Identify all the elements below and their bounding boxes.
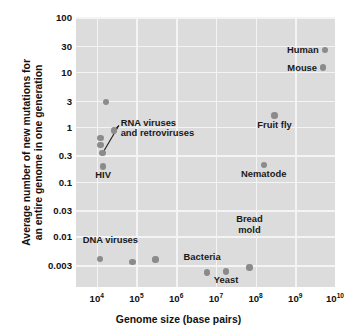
gridline-vertical: [216, 17, 218, 287]
annotation-line-1: Bacteria: [184, 252, 221, 262]
gridline-vertical: [97, 17, 99, 287]
x-tick-1e10: 1010: [326, 293, 344, 304]
annotation-line-1: DNA viruses: [83, 235, 138, 245]
y-axis-title: Average number of new mutations for an e…: [21, 7, 46, 297]
gridline-horizontal: [76, 210, 335, 212]
data-point-rna-virus-5: [99, 150, 105, 156]
y-tick-0.1: 0.1: [59, 176, 72, 187]
x-tick-1e6: 106: [169, 293, 183, 304]
annotation-bacteria: Bacteria: [184, 252, 221, 262]
point-label-hiv: HIV: [95, 170, 111, 180]
x-axis-tick-labels: 1041051061071081091010: [0, 293, 357, 309]
data-point-rna-virus-1: [103, 99, 109, 105]
annotation-rna-viruses: RNA virusesand retroviruses: [121, 118, 194, 139]
x-tick-exponent: 9: [299, 292, 303, 299]
y-tick-30: 30: [61, 40, 72, 51]
x-tick-mantissa: 10: [326, 293, 337, 304]
data-point-bread-mold: [246, 264, 252, 270]
x-tick-exponent: 4: [100, 292, 104, 299]
gridline-vertical: [176, 17, 178, 287]
y-tick-0.3: 0.3: [59, 150, 72, 161]
x-tick-exponent: 8: [259, 292, 263, 299]
data-point-human: [322, 47, 328, 53]
gridline-horizontal: [76, 182, 335, 184]
x-tick-exponent: 5: [140, 292, 144, 299]
y-tick-0.003: 0.003: [48, 260, 72, 271]
gridline-horizontal: [76, 17, 335, 19]
x-axis-title: Genome size (base pairs): [0, 314, 357, 325]
point-label-nematode: Nematode: [241, 169, 286, 179]
y-tick-3: 3: [67, 95, 72, 106]
gridline-vertical: [295, 17, 297, 287]
data-point-dna-virus-1: [97, 256, 103, 262]
data-point-bacteria: [204, 269, 210, 275]
x-tick-exponent: 10: [337, 292, 344, 299]
mutation-rate-scatter-figure: HumanMouseFruit flyNematodeHIVYeast RNA …: [0, 0, 357, 336]
point-label-fruit-fly: Fruit fly: [257, 120, 291, 130]
y-tick-1: 1: [67, 121, 72, 132]
gridline-horizontal: [76, 101, 335, 103]
x-tick-exponent: 7: [219, 292, 223, 299]
data-point-dna-virus-3: [152, 256, 158, 262]
data-point-rna-virus-4: [97, 142, 103, 148]
x-tick-1e4: 104: [90, 293, 104, 304]
x-tick-1e9: 109: [288, 293, 302, 304]
y-tick-10: 10: [61, 66, 72, 77]
data-point-mouse: [320, 64, 326, 70]
y-axis-title-line-1: Average number of new mutations for: [21, 7, 33, 297]
data-point-rna-virus-3: [97, 135, 103, 141]
annotation-bread-mold: Breadmold: [236, 215, 263, 236]
plot-area: HumanMouseFruit flyNematodeHIVYeast RNA …: [76, 17, 335, 287]
x-tick-mantissa: 10: [288, 293, 299, 304]
gridline-vertical: [136, 17, 138, 287]
y-tick-0.03: 0.03: [53, 205, 72, 216]
x-tick-mantissa: 10: [129, 293, 140, 304]
x-tick-mantissa: 10: [248, 293, 259, 304]
x-tick-mantissa: 10: [90, 293, 101, 304]
point-label-yeast: Yeast: [214, 275, 239, 285]
x-tick-1e8: 108: [248, 293, 262, 304]
x-tick-mantissa: 10: [169, 293, 180, 304]
x-tick-1e7: 107: [209, 293, 223, 304]
data-point-rna-virus-2: [111, 127, 117, 133]
y-tick-0.01: 0.01: [53, 231, 72, 242]
annotation-line-2: mold: [236, 225, 263, 235]
y-axis-title-line-2: an entire genome in one generation: [33, 7, 45, 297]
x-tick-mantissa: 10: [209, 293, 220, 304]
x-tick-exponent: 6: [180, 292, 184, 299]
annotation-line-2: and retroviruses: [121, 128, 194, 138]
y-tick-100: 100: [56, 12, 72, 23]
point-label-mouse: Mouse: [287, 62, 317, 72]
gridline-horizontal: [76, 265, 335, 267]
x-tick-1e5: 105: [129, 293, 143, 304]
point-label-human: Human: [287, 45, 319, 55]
gridline-horizontal: [76, 155, 335, 157]
annotation-dna-viruses: DNA viruses: [83, 235, 138, 245]
gridline-vertical: [256, 17, 258, 287]
